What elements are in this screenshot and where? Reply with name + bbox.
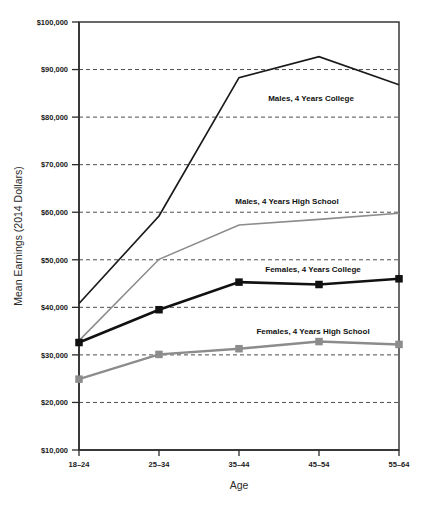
plot-frame (79, 22, 399, 450)
y-axis-title: Mean Earnings (2014 Dollars) (12, 166, 24, 305)
series-annotation-0: Males, 4 Years College (268, 94, 354, 103)
x-axis-title: Age (230, 479, 249, 491)
series-marker-3 (235, 345, 243, 353)
y-tick-label: $20,000 (41, 398, 68, 407)
series-annotation-3: Females, 4 Years High School (256, 327, 369, 336)
series-marker-2 (75, 339, 83, 347)
x-axis-ticks: 18–2425–3435–4445–5455–64 (69, 450, 411, 469)
chart-canvas: $10,000$20,000$30,000$40,000$50,000$60,0… (0, 0, 426, 505)
y-tick-label: $40,000 (41, 303, 68, 312)
y-tick-label: $60,000 (41, 208, 68, 217)
y-tick-label: $30,000 (41, 351, 68, 360)
y-tick-label: $80,000 (41, 113, 68, 122)
series-marker-3 (155, 351, 163, 359)
y-axis-ticks: $10,000$20,000$30,000$40,000$50,000$60,0… (37, 18, 79, 455)
earnings-by-age-chart: $10,000$20,000$30,000$40,000$50,000$60,0… (0, 0, 426, 505)
series-marker-3 (75, 375, 83, 383)
x-tick-label: 55–64 (389, 460, 411, 469)
y-tick-label: $100,000 (37, 18, 68, 27)
x-tick-label: 45–54 (309, 460, 331, 469)
x-tick-label: 18–24 (69, 460, 91, 469)
series-annotation-1: Males, 4 Years High School (235, 197, 338, 206)
series-annotations: Males, 4 Years CollegeMales, 4 Years Hig… (235, 94, 369, 336)
series-marker-3 (315, 338, 323, 346)
y-tick-label: $90,000 (41, 65, 68, 74)
series-marker-2 (235, 278, 243, 286)
series-marker-2 (155, 306, 163, 314)
x-tick-label: 35–44 (229, 460, 251, 469)
series-marker-3 (395, 341, 403, 349)
y-tick-label: $50,000 (41, 256, 68, 265)
series-annotation-2: Females, 4 Years College (265, 265, 361, 274)
x-tick-label: 25–34 (149, 460, 171, 469)
plot-area-border (79, 22, 399, 450)
series-marker-2 (395, 275, 403, 283)
y-tick-label: $10,000 (41, 446, 68, 455)
y-tick-label: $70,000 (41, 160, 68, 169)
gridlines (79, 70, 399, 403)
series-marker-2 (315, 281, 323, 289)
